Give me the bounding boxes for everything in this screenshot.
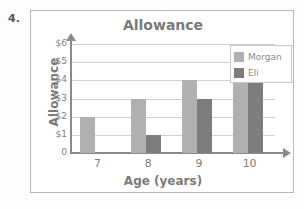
chart-title: Allowance [31,17,295,33]
x-axis-arrow-icon [283,148,291,158]
legend-item-morgan: Morgan [234,49,288,64]
legend-item-eli: Eli [234,65,288,80]
y-tick-label: $4 [43,75,67,84]
bar-morgan-age-9 [182,80,197,153]
chart-container: Allowance Allowance 0$1$2$3$4$5$6 Morgan… [30,10,294,193]
x-tick-label: 10 [224,157,275,170]
y-tick-label: $2 [43,112,67,121]
legend-swatch-icon [234,68,244,78]
x-axis-title: Age (years) [31,174,295,188]
chart-legend: MorganEli [230,45,292,83]
legend-swatch-icon [234,52,244,62]
x-tick-label: 9 [174,157,225,170]
bar-morgan-age-8 [131,99,146,154]
legend-label: Eli [248,68,259,78]
y-tick-label: $3 [43,94,67,103]
bar-eli-age-9 [197,99,212,154]
y-tick-label: $6 [43,39,67,48]
y-tick-label: 0 [43,148,67,157]
x-tick-label: 8 [123,157,174,170]
y-tick-label: $1 [43,130,67,139]
y-axis-tick-labels: 0$1$2$3$4$5$6 [39,11,67,194]
worksheet-problem: 4. Allowance Allowance 0$1$2$3$4$5$6 Mor… [0,0,304,209]
legend-label: Morgan [248,52,282,62]
problem-number: 4. [8,12,20,25]
bar-eli-age-8 [146,135,161,153]
y-tick-label: $5 [43,57,67,66]
x-tick-label: 7 [72,157,123,170]
bar-morgan-age-7 [80,117,95,153]
